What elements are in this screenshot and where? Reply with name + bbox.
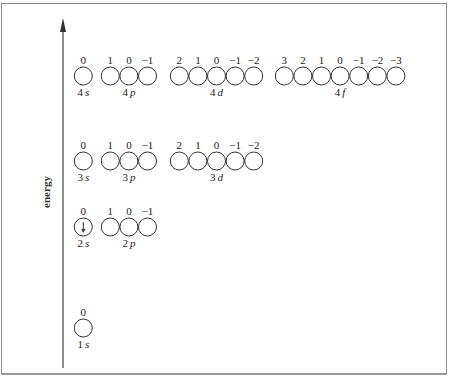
orbital-circle [275, 67, 293, 85]
subshell-4f: 3210−1−2−34f [275, 54, 405, 98]
orbital-circle [170, 67, 188, 85]
ml-value: 0 [81, 306, 87, 318]
orbital-circle [139, 67, 157, 85]
ml-value: −1 [142, 205, 154, 217]
orbital-circle [368, 67, 386, 85]
subshell-4s: 04s [74, 54, 92, 98]
ml-value: −3 [390, 54, 402, 66]
ml-value: 0 [214, 139, 220, 151]
ml-value: 3 [282, 54, 288, 66]
ml-value: 2 [177, 54, 183, 66]
ml-value: −1 [142, 139, 154, 151]
subshell-label: 2p [122, 237, 136, 249]
subshell-2p: 10−12p [101, 205, 156, 249]
ml-value: 0 [214, 54, 220, 66]
ml-value: 1 [319, 54, 325, 66]
ml-value: 1 [108, 139, 114, 151]
orbital-circle [331, 67, 349, 85]
ml-value: 1 [108, 54, 114, 66]
orbital-circle [226, 67, 244, 85]
orbital-circle [101, 67, 119, 85]
energy-axis [60, 18, 66, 368]
ml-value: 2 [177, 139, 183, 151]
orbital-circle [208, 152, 226, 170]
subshell-3p: 10−13p [101, 139, 156, 183]
subshell-label: 4f [335, 86, 348, 98]
ml-value: −2 [248, 139, 260, 151]
subshell-4p: 10−14p [101, 54, 156, 98]
arrow-up-icon [60, 18, 66, 32]
ml-value: 0 [337, 54, 343, 66]
ml-value: −2 [371, 54, 383, 66]
subshell-1s: 01s [74, 306, 92, 350]
orbital-circle [74, 152, 92, 170]
orbital-circle [226, 152, 244, 170]
ml-value: 2 [300, 54, 306, 66]
orbital-circle [120, 67, 138, 85]
energy-axis-label: energy [40, 176, 52, 208]
subshell-4d: 210−1−24d [170, 54, 262, 98]
ml-value: 0 [81, 139, 87, 151]
ml-value: −1 [229, 54, 241, 66]
ml-value: 0 [81, 205, 87, 217]
ml-value: 1 [108, 205, 114, 217]
subshell-label: 3s [77, 171, 89, 183]
ml-value: −2 [248, 54, 260, 66]
ml-value: 0 [126, 139, 132, 151]
ml-value: 0 [81, 54, 87, 66]
electron-spin-down-icon [81, 222, 85, 233]
orbital-circle [120, 218, 138, 236]
subshell-3s: 03s [74, 139, 92, 183]
ml-value: 1 [195, 139, 201, 151]
subshell-label: 4p [122, 86, 136, 98]
orbital-circle [139, 152, 157, 170]
subshell-label: 3d [210, 171, 224, 183]
orbital-groups: 04s10−14p210−1−24d3210−1−2−34f03s10−13p2… [74, 54, 405, 350]
orbital-circle [74, 67, 92, 85]
orbital-circle [139, 218, 157, 236]
orbital-energy-diagram: energy 04s10−14p210−1−24d3210−1−2−34f03s… [0, 0, 451, 380]
subshell-label: 4d [210, 86, 224, 98]
orbital-circle [387, 67, 405, 85]
ml-value: 0 [126, 54, 132, 66]
orbital-circle [189, 152, 207, 170]
orbital-circle [245, 152, 263, 170]
ml-value: −1 [229, 139, 241, 151]
subshell-2s: 02s [74, 205, 92, 249]
shell-1: 01s [74, 306, 92, 350]
orbital-circle [120, 152, 138, 170]
orbital-circle [350, 67, 368, 85]
orbital-circle [101, 218, 119, 236]
ml-value: −1 [142, 54, 154, 66]
orbital-circle [189, 67, 207, 85]
shell-3: 03s10−13p210−1−23d [74, 139, 262, 183]
shell-2: 02s10−12p [74, 205, 156, 249]
ml-value: 1 [195, 54, 201, 66]
orbital-circle [245, 67, 263, 85]
orbital-circle [294, 67, 312, 85]
orbital-circle [101, 152, 119, 170]
subshell-label: 2s [77, 237, 89, 249]
ml-value: 0 [126, 205, 132, 217]
orbital-circle [313, 67, 331, 85]
subshell-label: 3p [122, 171, 136, 183]
orbital-circle [170, 152, 188, 170]
ml-value: −1 [353, 54, 365, 66]
subshell-label: 1s [77, 338, 89, 350]
subshell-3d: 210−1−23d [170, 139, 262, 183]
orbital-circle [208, 67, 226, 85]
orbital-circle [74, 319, 92, 337]
subshell-label: 4s [77, 86, 89, 98]
shell-4: 04s10−14p210−1−24d3210−1−2−34f [74, 54, 405, 98]
